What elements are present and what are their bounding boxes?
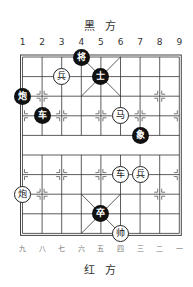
file-label: 六 [75,245,87,253]
piece-red-chariot[interactable]: 车 [112,166,129,183]
file-label: 九 [17,245,29,253]
piece-black-general[interactable]: 将 [73,49,90,66]
piece-black-chariot[interactable]: 车 [34,107,51,124]
piece-red-soldier[interactable]: 兵 [132,166,149,183]
file-label: 三 [134,245,146,253]
piece-black-elephant[interactable]: 象 [132,127,149,144]
file-label: 二 [154,245,166,253]
file-label: 四 [115,245,127,253]
xiangqi-board [0,0,193,287]
file-label: 一 [173,245,185,253]
side-label-red: 红 方 [0,265,193,277]
file-label: 八 [36,245,48,253]
piece-black-cannon[interactable]: 炮 [14,88,31,105]
piece-red-general[interactable]: 帅 [112,225,129,242]
piece-red-cannon[interactable]: 炮 [14,186,31,203]
file-label: 七 [56,245,68,253]
file-label: 五 [95,245,107,253]
